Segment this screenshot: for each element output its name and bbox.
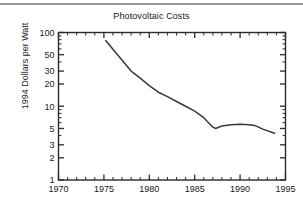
figure-canvas: Photovoltaic Costs 1994 Dollars per Watt… (0, 0, 303, 214)
x-tick-label: 1970 (48, 184, 68, 194)
y-tick-label: 20 (44, 79, 54, 89)
plot-area: 123510203050100 197019751980198519901995 (0, 0, 303, 214)
x-axis-tick-labels: 197019751980198519901995 (48, 184, 295, 194)
y-tick-label: 10 (44, 102, 54, 112)
x-axis-ticks (59, 33, 286, 181)
y-tick-label: 3 (49, 140, 54, 150)
y-axis-tick-labels: 123510203050100 (39, 28, 54, 186)
x-tick-label: 1975 (94, 184, 114, 194)
y-tick-label: 100 (39, 28, 54, 38)
x-tick-label: 1995 (275, 184, 295, 194)
axes-frame (59, 33, 286, 181)
axes-border (59, 33, 286, 181)
y-tick-label: 5 (49, 124, 54, 134)
y-axis-minor-ticks (59, 36, 286, 136)
y-tick-label: 30 (44, 66, 54, 76)
x-axis-minor-ticks (68, 33, 277, 181)
x-tick-label: 1980 (139, 184, 159, 194)
x-tick-label: 1985 (185, 184, 205, 194)
y-tick-label: 50 (44, 50, 54, 60)
x-tick-label: 1990 (230, 184, 250, 194)
y-axis-ticks (59, 33, 286, 181)
y-tick-label: 2 (49, 153, 54, 163)
data-series-line (106, 40, 275, 133)
